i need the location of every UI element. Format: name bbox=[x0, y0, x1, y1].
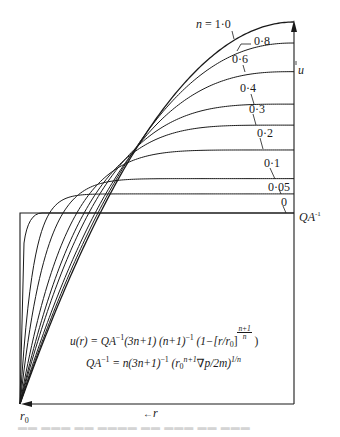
label-n-0-05: 0·05 bbox=[268, 181, 290, 193]
label-n-0: 0 bbox=[281, 196, 287, 208]
label-n-0-3: 0·3 bbox=[249, 103, 265, 115]
label-n-0-4: 0·4 bbox=[240, 82, 256, 94]
r-axis-arrowhead bbox=[21, 401, 32, 407]
velocity-equation: u(r) = QA−1(3n+1) (n+1)−1 (1−[r/r0]n+1n … bbox=[70, 325, 258, 349]
r-axis-label: ←r bbox=[143, 407, 158, 420]
u-axis-label: u bbox=[298, 64, 304, 76]
label-n-0-2: 0·2 bbox=[257, 127, 273, 139]
profile-curve bbox=[20, 213, 294, 404]
figure-caption-faint: ▬▬ ▬▬▬ ▬▬ ▬▬▬▬ ▬▬ ▬▬▬ ▬▬ ▬▬▬ bbox=[18, 422, 251, 432]
ref-qa-label: QA-1 bbox=[299, 208, 321, 223]
label-n-0-8: 0·8 bbox=[254, 35, 270, 47]
flow-rate-equation: QA−1 = n(3n+1)−1 (r0n+1∇p/2m)1/n bbox=[86, 355, 241, 371]
profile-curve bbox=[20, 43, 294, 404]
velocity-profile-diagram bbox=[0, 0, 340, 437]
reference-frame bbox=[20, 213, 294, 404]
label-n-1-0: nn = 1·0 = 1·0 bbox=[196, 18, 231, 30]
label-n-0-6: 0·6 bbox=[232, 53, 248, 65]
label-n-0-1: 0·1 bbox=[264, 157, 280, 169]
